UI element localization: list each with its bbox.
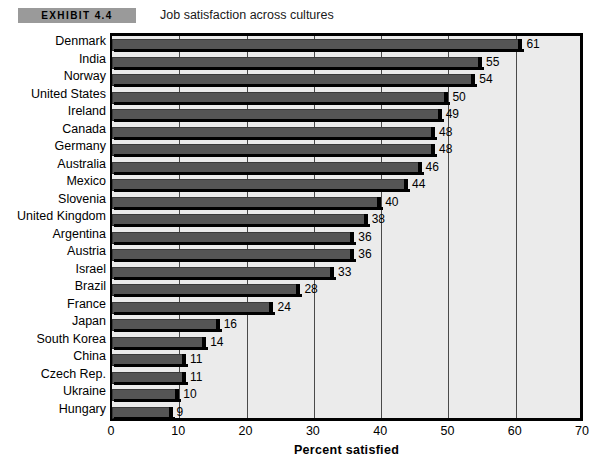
bar-shadow xyxy=(114,207,383,210)
bar-value-label: 40 xyxy=(385,195,398,209)
bar-value-label: 28 xyxy=(304,282,317,296)
category-label-australia: Australia xyxy=(0,157,106,171)
bar-row: 55 xyxy=(112,54,580,72)
category-label-japan: Japan xyxy=(0,314,106,328)
chart-plot-inner: 6155545049484846444038363633282416141111… xyxy=(112,36,580,418)
bar-row: 36 xyxy=(112,246,580,264)
bar-row: 33 xyxy=(112,264,580,282)
bar-row: 14 xyxy=(112,334,580,352)
bar-row: 36 xyxy=(112,229,580,247)
bar-value-label: 46 xyxy=(426,160,439,174)
bar-value-label: 44 xyxy=(412,177,425,191)
bar-row: 24 xyxy=(112,299,580,317)
bar-row: 48 xyxy=(112,124,580,142)
bar-value-label: 50 xyxy=(452,90,465,104)
bar-value-label: 36 xyxy=(358,247,371,261)
bar-value-label: 36 xyxy=(358,230,371,244)
exhibit-caption: Job satisfaction across cultures xyxy=(160,8,334,22)
bar-shadow xyxy=(114,417,175,420)
bar-row: 16 xyxy=(112,316,580,334)
category-label-india: India xyxy=(0,52,106,66)
bar-value-label: 9 xyxy=(177,405,184,419)
bar-value-label: 48 xyxy=(439,125,452,139)
bar-value-label: 54 xyxy=(479,72,492,86)
x-tick-0: 0 xyxy=(108,424,115,438)
category-axis-labels: DenmarkIndiaNorwayUnited StatesIrelandCa… xyxy=(0,33,106,421)
category-label-germany: Germany xyxy=(0,139,106,153)
bar-row: 9 xyxy=(112,404,580,422)
bar-row: 11 xyxy=(112,369,580,387)
exhibit-header: EXHIBIT 4.4 Job satisfaction across cult… xyxy=(0,0,604,33)
bar-shadow xyxy=(114,49,524,52)
bar-shadow xyxy=(114,102,450,105)
bar-row: 54 xyxy=(112,71,580,89)
x-tick-20: 20 xyxy=(239,424,253,438)
bar-shadow xyxy=(114,364,188,367)
exhibit-badge: EXHIBIT 4.4 xyxy=(18,8,136,23)
bar-shadow xyxy=(114,242,356,245)
x-tick-30: 30 xyxy=(306,424,320,438)
category-label-israel: Israel xyxy=(0,262,106,276)
bar-value-label: 11 xyxy=(190,352,202,366)
bar-row: 46 xyxy=(112,159,580,177)
bar-shadow xyxy=(114,294,302,297)
category-label-czech-rep: Czech Rep. xyxy=(0,367,106,381)
bar-shadow xyxy=(114,172,424,175)
category-label-austria: Austria xyxy=(0,244,106,258)
category-label-france: France xyxy=(0,297,106,311)
bar-row: 44 xyxy=(112,176,580,194)
bar-shadow xyxy=(114,67,484,70)
category-label-slovenia: Slovenia xyxy=(0,192,106,206)
category-label-denmark: Denmark xyxy=(0,34,106,48)
x-axis-title: Percent satisfied xyxy=(110,443,583,457)
x-tick-50: 50 xyxy=(440,424,454,438)
bar-value-label: 10 xyxy=(183,387,196,401)
bar-shadow xyxy=(114,189,410,192)
x-axis-ticks: 010203040506070 xyxy=(110,424,583,442)
category-label-hungary: Hungary xyxy=(0,402,106,416)
bar-shadow xyxy=(114,277,336,280)
category-label-brazil: Brazil xyxy=(0,279,106,293)
bar-shadow xyxy=(114,259,356,262)
bar-row: 50 xyxy=(112,89,580,107)
category-label-argentina: Argentina xyxy=(0,227,106,241)
bar-shadow xyxy=(114,154,437,157)
bar-row: 28 xyxy=(112,281,580,299)
bar-value-label: 61 xyxy=(526,37,539,51)
bar-shadow xyxy=(114,224,370,227)
bar-shadow xyxy=(114,84,477,87)
bar-value-label: 24 xyxy=(277,300,290,314)
bar-shadow xyxy=(114,329,222,332)
bar-value-label: 11 xyxy=(190,370,202,384)
bar-value-label: 49 xyxy=(446,107,459,121)
bar-shadow xyxy=(114,312,275,315)
bar-value-label: 38 xyxy=(372,212,385,226)
category-label-mexico: Mexico xyxy=(0,174,106,188)
bar-row: 49 xyxy=(112,106,580,124)
category-label-south-korea: South Korea xyxy=(0,332,106,346)
bar-shadow xyxy=(114,399,181,402)
bar-row: 40 xyxy=(112,194,580,212)
category-label-united-kingdom: United Kingdom xyxy=(0,209,106,223)
x-tick-60: 60 xyxy=(508,424,522,438)
x-tick-40: 40 xyxy=(373,424,387,438)
category-label-ukraine: Ukraine xyxy=(0,384,106,398)
bar-row: 61 xyxy=(112,36,580,54)
bar-value-label: 33 xyxy=(338,265,351,279)
x-tick-70: 70 xyxy=(575,424,589,438)
chart-plot-area: 6155545049484846444038363633282416141111… xyxy=(110,33,583,421)
bar-row: 11 xyxy=(112,351,580,369)
x-tick-10: 10 xyxy=(171,424,185,438)
bar-value-label: 48 xyxy=(439,142,452,156)
bar-shadow xyxy=(114,347,208,350)
category-label-canada: Canada xyxy=(0,122,106,136)
category-label-china: China xyxy=(0,349,106,363)
category-label-united-states: United States xyxy=(0,87,106,101)
bar-value-label: 16 xyxy=(224,317,237,331)
bar-row: 10 xyxy=(112,386,580,404)
bar-row: 48 xyxy=(112,141,580,159)
bar-row: 38 xyxy=(112,211,580,229)
bar-value-label: 14 xyxy=(210,335,223,349)
bar-value-label: 55 xyxy=(486,55,499,69)
category-label-ireland: Ireland xyxy=(0,104,106,118)
